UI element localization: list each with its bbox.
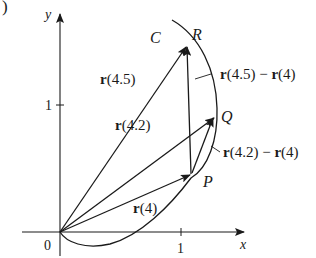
label-r4-5: r(4.5) [100, 71, 135, 88]
y-tick-label: 1 [45, 98, 52, 113]
leader-diff-4-2 [211, 146, 220, 152]
point-label-p: P [202, 173, 213, 190]
label-diff-4-2: r(4.2) − r(4) [223, 144, 299, 161]
label-diff-4-5: r(4.5) − r(4) [220, 66, 296, 83]
panel-marker: ) [2, 0, 8, 16]
vector-diff-4-5 [187, 47, 191, 174]
x-tick-label: 1 [177, 241, 184, 256]
x-axis-label: x [239, 237, 247, 252]
point-label-r: R [191, 26, 202, 43]
leader-diff-4-5 [195, 74, 211, 79]
vector-function-diagram: ) y x 0 1 1 C R Q P r(4.5) r(4.2) r(4) r… [0, 0, 316, 258]
label-r4: r(4) [133, 200, 157, 217]
label-r4-2: r(4.2) [115, 117, 150, 134]
curve-label-c: C [150, 29, 161, 46]
point-label-q: Q [221, 108, 233, 125]
origin-label: 0 [44, 238, 51, 253]
y-axis-label: y [43, 7, 52, 22]
